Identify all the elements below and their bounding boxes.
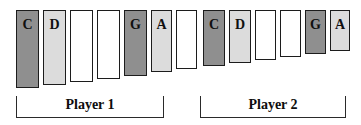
xylophone-diagram: CDGACDGA Player 1Player 2: [0, 0, 361, 125]
bracket-label-player-2: Player 2: [201, 97, 345, 113]
bracket-player-1: Player 1: [16, 96, 164, 118]
note-label: A: [156, 18, 166, 32]
note-label: D: [235, 18, 245, 32]
note-bar-player-1-g[interactable]: G: [124, 10, 147, 76]
note-bar-player-2-a[interactable]: A: [330, 10, 350, 51]
note-label: G: [130, 18, 141, 32]
note-bar-player-1-blank-3[interactable]: [97, 10, 120, 79]
note-bar-player-1-a[interactable]: A: [151, 10, 172, 72]
note-label: C: [209, 18, 219, 32]
note-bar-player-2-blank-3[interactable]: [280, 10, 301, 57]
note-bar-player-2-c[interactable]: C: [203, 10, 225, 66]
note-bar-player-1-blank-6[interactable]: [176, 10, 197, 69]
note-bar-player-1-d[interactable]: D: [43, 10, 66, 85]
bracket-player-2: Player 2: [200, 96, 346, 118]
note-label: C: [22, 18, 32, 32]
note-label: G: [310, 18, 321, 32]
bracket-label-player-1: Player 1: [17, 97, 163, 113]
note-bar-row: CDGACDGA: [0, 0, 361, 92]
note-bar-player-2-d[interactable]: D: [229, 10, 251, 63]
note-label: D: [49, 18, 59, 32]
note-bar-player-2-blank-2[interactable]: [255, 10, 276, 60]
note-bar-player-1-blank-2[interactable]: [70, 10, 93, 82]
note-label: A: [335, 18, 345, 32]
note-bar-player-2-g[interactable]: G: [305, 10, 326, 54]
note-bar-player-1-c[interactable]: C: [16, 10, 39, 88]
